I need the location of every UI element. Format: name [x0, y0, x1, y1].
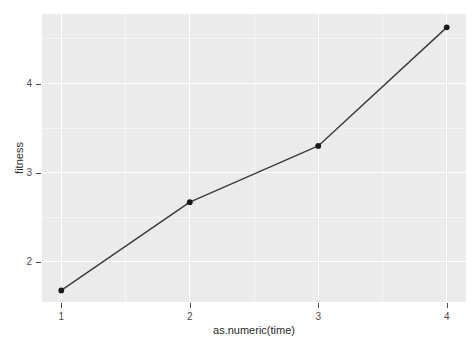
data-point — [187, 199, 193, 205]
y-axis-title: fitness — [10, 14, 28, 302]
data-point — [58, 288, 64, 294]
data-point — [315, 143, 321, 149]
plot-panel — [42, 14, 466, 302]
x-tick-label: 2 — [175, 311, 205, 323]
x-tick-label: 3 — [303, 311, 333, 323]
plot-canvas — [42, 14, 466, 302]
x-tick-mark — [318, 303, 319, 308]
y-tick-mark — [36, 262, 41, 263]
x-axis-title: as.numeric(time) — [42, 324, 466, 336]
grid-minor-lines — [42, 14, 466, 302]
x-tick-label: 1 — [46, 311, 76, 323]
x-tick-label: 4 — [432, 311, 462, 323]
chart-container: 234 fitness as.numeric(time) 1234 — [0, 0, 476, 349]
x-tick-mark — [190, 303, 191, 308]
x-tick-mark — [61, 303, 62, 308]
y-tick-mark — [36, 173, 41, 174]
data-point — [444, 24, 450, 30]
y-tick-mark — [36, 84, 41, 85]
x-tick-mark — [447, 303, 448, 308]
